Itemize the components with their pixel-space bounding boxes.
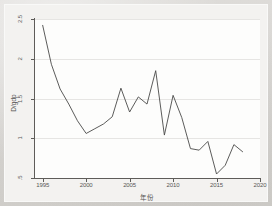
x-axis-title: 年份 [140, 192, 154, 202]
y-axis-tick-label: 2 [17, 51, 23, 67]
y-axis-tick-label: 2.5 [17, 11, 23, 27]
y-axis-tick [31, 19, 34, 20]
y-axis-tick [31, 178, 34, 179]
data-series-line [4, 4, 268, 202]
x-axis-tick-label: 2000 [80, 182, 93, 188]
y-axis-tick-label: .5 [17, 170, 23, 186]
y-axis-tick [31, 59, 34, 60]
chart-graph-region: D/gdp 年份 .511.522.5199520002005201020152… [4, 4, 268, 202]
x-axis-tick-label: 2005 [123, 182, 136, 188]
x-axis-tick-label: 2015 [210, 182, 223, 188]
x-axis-tick-label: 1995 [36, 182, 49, 188]
y-axis-tick [31, 99, 34, 100]
y-axis-tick-label: 1 [17, 130, 23, 146]
x-axis-tick-label: 2020 [254, 182, 267, 188]
y-axis-tick-label: 1.5 [17, 91, 23, 107]
x-axis-tick-label: 2010 [167, 182, 180, 188]
y-axis-tick [31, 138, 34, 139]
